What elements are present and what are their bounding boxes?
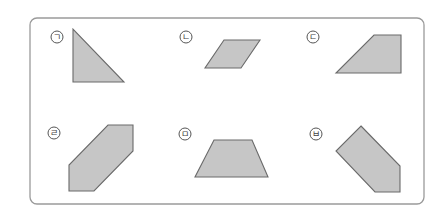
item-rieul: ㄹ <box>48 125 133 191</box>
item-label: ㅂ <box>312 129 320 139</box>
parallelogram-shape <box>205 40 260 68</box>
item-label: ㄱ <box>53 32 61 42</box>
item-digeut: ㄷ <box>307 31 401 73</box>
item-mieum: ㅁ <box>179 128 268 177</box>
item-label: ㄴ <box>182 32 190 42</box>
item-label: ㅁ <box>181 129 189 139</box>
hexagon-shape <box>69 125 133 191</box>
item-giyeok: ㄱ <box>51 29 124 82</box>
item-label: ㄹ <box>50 128 58 138</box>
isosceles-trapezoid-shape <box>195 140 268 177</box>
item-bieup: ㅂ <box>310 126 400 192</box>
shapes-figure: ㄱ ㄴ ㄷ ㄹ ㅁ ㅂ <box>0 0 448 214</box>
right-triangle-shape <box>73 29 124 82</box>
item-nieun: ㄴ <box>180 31 260 68</box>
right-trapezoid-shape <box>336 35 401 73</box>
pentagon-shape <box>336 126 400 192</box>
item-label: ㄷ <box>309 32 317 42</box>
